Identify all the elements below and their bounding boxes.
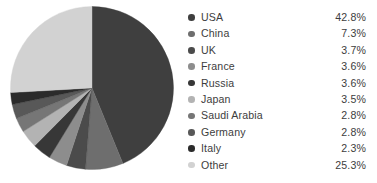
legend-item-value: 42.8% — [335, 9, 366, 25]
legend-item[interactable]: Japan3.5% — [187, 91, 369, 107]
legend-item-label: USA — [201, 9, 223, 25]
pie-chart-svg — [10, 6, 174, 170]
legend-item-label: China — [201, 25, 229, 41]
legend-item[interactable]: Saudi Arabia2.8% — [187, 107, 369, 123]
legend-item-value: 2.8% — [341, 124, 366, 140]
legend-item[interactable]: UK3.7% — [187, 42, 369, 58]
legend-item[interactable]: Russia3.6% — [187, 75, 369, 91]
legend-item-value: 7.3% — [341, 25, 366, 41]
filled-circle-icon — [188, 145, 195, 152]
legend-item-label: Japan — [201, 91, 231, 107]
legend-item-label: Russia — [201, 75, 234, 91]
filled-circle-icon — [188, 31, 195, 38]
legend-item-value: 3.6% — [341, 75, 366, 91]
legend-item[interactable]: Italy2.3% — [187, 140, 369, 156]
legend-item-value: 3.5% — [341, 91, 366, 107]
legend-item-value: 3.7% — [341, 42, 366, 58]
legend-item[interactable]: France3.6% — [187, 58, 369, 74]
filled-circle-icon — [188, 113, 195, 120]
legend-item-label: France — [201, 58, 235, 74]
pie-slice-group — [11, 6, 174, 169]
legend-item[interactable]: China7.3% — [187, 25, 369, 41]
legend-item-value: 2.8% — [341, 107, 366, 123]
filled-circle-icon — [188, 162, 195, 169]
legend-item-value: 2.3% — [341, 140, 366, 156]
filled-circle-icon — [188, 63, 195, 70]
legend-item-value: 3.6% — [341, 58, 366, 74]
pie-chart-figure: USA42.8%China7.3%UK3.7%France3.6%Russia3… — [0, 0, 377, 183]
legend-item[interactable]: Germany2.8% — [187, 124, 369, 140]
chart-legend: USA42.8%China7.3%UK3.7%France3.6%Russia3… — [187, 9, 369, 173]
filled-circle-icon — [188, 80, 195, 87]
legend-item[interactable]: Other25.3% — [187, 157, 369, 173]
pie-chart-plot-area — [10, 6, 174, 170]
filled-circle-icon — [188, 129, 195, 136]
legend-item-label: Saudi Arabia — [201, 107, 263, 123]
legend-item-value: 25.3% — [335, 157, 366, 173]
filled-circle-icon — [188, 47, 195, 54]
legend-item-label: UK — [201, 42, 216, 58]
filled-circle-icon — [188, 96, 195, 103]
pie-slice[interactable] — [11, 7, 92, 93]
legend-item-label: Other — [201, 157, 228, 173]
legend-item[interactable]: USA42.8% — [187, 9, 369, 25]
legend-item-label: Germany — [201, 124, 246, 140]
filled-circle-icon — [188, 14, 195, 21]
legend-item-label: Italy — [201, 140, 221, 156]
